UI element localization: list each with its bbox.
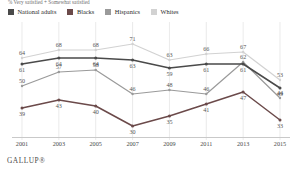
data-label: 49 <box>277 91 283 97</box>
data-point <box>168 89 170 91</box>
data-point <box>205 103 208 106</box>
data-point <box>205 93 207 95</box>
data-label: 63 <box>166 52 172 58</box>
line-chart-svg: 6468687163666753505758464846624461646463… <box>0 22 296 140</box>
data-point <box>131 43 133 45</box>
legend-label-national-adults: National adults <box>18 9 57 15</box>
data-point <box>205 53 207 55</box>
x-axis-label: 2013 <box>237 140 249 147</box>
data-label: 53 <box>277 72 283 78</box>
data-label: 71 <box>130 36 136 42</box>
x-axis-label: 2003 <box>53 140 65 147</box>
data-point <box>95 69 97 71</box>
data-label: 46 <box>130 86 136 92</box>
x-axis-label: 2005 <box>90 140 102 147</box>
data-label: 41 <box>203 107 209 113</box>
data-point <box>131 59 134 62</box>
legend-swatch-national-adults <box>8 9 14 15</box>
legend-item-blacks[interactable]: Blacks <box>67 9 94 15</box>
data-point <box>21 63 24 66</box>
data-point <box>21 107 24 110</box>
data-label: 64 <box>56 61 62 67</box>
legend-label-blacks: Blacks <box>77 9 94 15</box>
legend-swatch-hispanics <box>105 9 111 15</box>
data-label: 43 <box>56 103 62 109</box>
data-label: 48 <box>166 82 172 88</box>
data-label: 68 <box>93 42 99 48</box>
data-label: 47 <box>240 95 246 101</box>
data-label: 61 <box>240 67 246 73</box>
data-point <box>95 49 97 51</box>
chart-legend: National adults Blacks Hispanics Whites <box>8 9 190 15</box>
data-point <box>279 97 281 99</box>
data-point <box>21 57 23 59</box>
data-label: 64 <box>19 50 25 56</box>
data-label: 62 <box>240 54 246 60</box>
chart-plot-area: 6468687163666753505758464846624461646463… <box>0 22 296 140</box>
data-label: 40 <box>93 109 99 115</box>
data-point <box>58 71 60 73</box>
data-point <box>242 63 245 66</box>
data-label: 33 <box>277 123 283 129</box>
data-label: 66 <box>203 46 209 52</box>
data-point <box>58 49 60 51</box>
legend-swatch-blacks <box>67 9 73 15</box>
data-point <box>57 57 60 60</box>
data-label: 46 <box>203 86 209 92</box>
data-point <box>242 91 245 94</box>
x-axis-labels: 20012003200520072009201120132015 <box>0 138 296 152</box>
data-label: 67 <box>240 44 246 50</box>
legend-item-national-adults[interactable]: National adults <box>8 9 56 15</box>
data-point <box>168 67 171 70</box>
gallup-logo: GALLUP® <box>7 156 45 165</box>
x-axis-label: 2001 <box>16 140 28 147</box>
x-axis-label: 2007 <box>126 140 138 147</box>
data-label: 61 <box>19 67 25 73</box>
data-label: 68 <box>56 42 62 48</box>
data-point <box>205 63 208 66</box>
data-label: 59 <box>166 71 172 77</box>
data-point <box>21 85 23 87</box>
data-point <box>94 105 97 108</box>
data-point <box>131 93 133 95</box>
x-axis-label: 2011 <box>200 140 212 147</box>
data-label: 61 <box>203 67 209 73</box>
data-point <box>94 57 97 60</box>
data-point <box>57 99 60 102</box>
legend-item-hispanics[interactable]: Hispanics <box>105 9 140 15</box>
data-label: 64 <box>93 61 99 67</box>
data-label: 35 <box>166 119 172 125</box>
x-axis-label: 2015 <box>274 140 286 147</box>
data-point <box>279 79 281 81</box>
data-label: 63 <box>130 63 136 69</box>
data-point <box>279 119 282 122</box>
legend-label-whites: Whites <box>161 9 179 15</box>
data-point <box>131 125 134 128</box>
chart-subtitle: % Very satisfied + Somewhat satisfied <box>8 0 90 5</box>
data-label: 39 <box>19 111 25 117</box>
x-axis-label: 2009 <box>163 140 175 147</box>
data-label: 50 <box>19 78 25 84</box>
data-label: 30 <box>130 129 136 135</box>
legend-swatch-whites <box>151 9 157 15</box>
legend-label-hispanics: Hispanics <box>115 9 140 15</box>
legend-item-whites[interactable]: Whites <box>151 9 179 15</box>
data-point <box>168 115 171 118</box>
data-point <box>168 59 170 61</box>
